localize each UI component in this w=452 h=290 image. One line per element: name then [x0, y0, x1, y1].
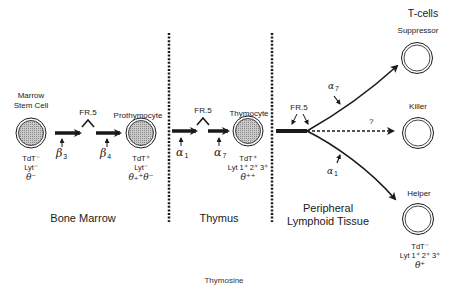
marker-theta: θ⁺ — [400, 260, 441, 270]
branch-to-suppressor — [307, 66, 397, 131]
suppressor-label: Suppressor — [398, 27, 439, 35]
alpha1-periph-arrow — [337, 155, 340, 163]
fr5-chevron-thymus — [197, 118, 209, 125]
helper-circle — [403, 204, 434, 235]
region-peripheral-line1: Peripheral — [303, 203, 353, 214]
region-peripheral-line2: Lymphoid Tissue — [287, 216, 369, 227]
helper-label: Helper — [407, 190, 431, 198]
marker-theta: θ⁻ — [22, 172, 39, 182]
marker-lyt: Lyt 1⁺ 2⁺ 3⁺ — [400, 252, 441, 261]
marker-lyt: Lyt 1⁺ 2⁺ 3⁺ — [228, 164, 269, 173]
alpha1-periph-label: α1 — [327, 167, 338, 177]
alpha7-thymus-label: α7 — [214, 147, 226, 159]
thymocyte-circle — [233, 116, 263, 146]
marker-lyt: Lyt⁻ — [22, 164, 39, 173]
stem-cell-circle — [16, 118, 46, 148]
figure-caption: Thymosine — [204, 277, 243, 285]
alpha1-thymus-label: α1 — [176, 147, 188, 159]
thymocyte-markers: TdT⁺ Lyt 1⁺ 2⁺ 3⁺ θ⁺⁺ — [228, 155, 269, 183]
marker-lyt: Lyt⁻ — [128, 164, 153, 173]
killer-label: Killer — [409, 103, 427, 111]
alpha7-periph-label: α7 — [328, 82, 339, 92]
marker-theta: θ₊⁺θ⁻ — [128, 172, 153, 182]
branch-to-helper — [307, 131, 395, 199]
suppressor-circle — [402, 43, 433, 74]
killer-circle — [403, 118, 434, 149]
alpha7-periph-arrow — [334, 96, 340, 104]
stem-cell-markers: TdT⁻ Lyt⁻ θ⁻ — [22, 155, 39, 183]
fr5-label-periph: FR.5 — [290, 104, 307, 112]
fr5-periph-right-arrow — [303, 114, 308, 124]
unknown-factor-label: ? — [369, 118, 373, 126]
prothymocyte-circle — [126, 118, 156, 148]
region-bone-marrow: Bone Marrow — [50, 213, 115, 224]
region-thymus: Thymus — [199, 213, 238, 224]
fr5-label-thymus: FR.5 — [194, 107, 211, 115]
prothymocyte-label: Prothymocyte — [114, 112, 163, 120]
marker-theta: θ⁺⁺ — [228, 172, 269, 182]
stem-cell-name-line1: Marrow — [18, 92, 45, 100]
stem-cell-name-line2: Stem Cell — [14, 102, 49, 110]
fr5-periph-left-arrow — [292, 114, 297, 124]
beta4-label: β4 — [100, 148, 111, 160]
helper-markers: TdT⁻ Lyt 1⁺ 2⁺ 3⁺ θ⁺ — [400, 243, 441, 271]
thymocyte-label: Thymocyte — [229, 110, 268, 118]
t-cells-title: T-cells — [408, 8, 438, 19]
prothymocyte-markers: TdT⁺ Lyt⁻ θ₊⁺θ⁻ — [128, 155, 153, 183]
beta3-label: β3 — [56, 148, 67, 160]
fr5-label-bone: FR.5 — [79, 109, 96, 117]
fr5-chevron-bone — [82, 120, 94, 127]
diagram-canvas — [0, 0, 452, 290]
